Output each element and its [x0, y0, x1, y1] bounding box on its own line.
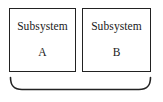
subsystem-b-letter: B [113, 46, 121, 59]
subsystem-block-a: Subsystem A [9, 8, 76, 72]
subsystem-b-title: Subsystem [91, 20, 142, 33]
subsystem-block-b: Subsystem B [82, 8, 151, 72]
brace-path [11, 78, 151, 90]
subsystem-a-letter: A [38, 46, 46, 59]
subsystem-diagram: Subsystem A Subsystem B [0, 0, 163, 102]
subsystem-a-title: Subsystem [17, 20, 68, 33]
